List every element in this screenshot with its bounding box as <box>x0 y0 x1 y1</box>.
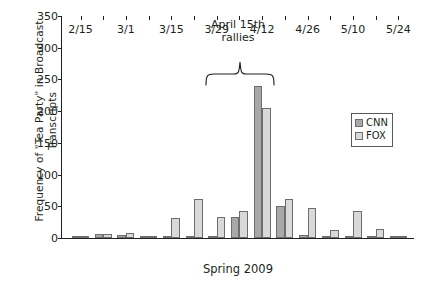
legend-label-fox: FOX <box>366 130 386 142</box>
legend-item-cnn: CNN <box>355 117 388 129</box>
y-tick-mark <box>58 79 62 80</box>
bar-fox-3-22 <box>194 199 203 238</box>
legend-swatch-cnn <box>355 119 363 127</box>
y-tick-mark <box>58 111 62 112</box>
y-tick-mark <box>58 143 62 144</box>
x-tick-label: 4/26 <box>295 23 320 36</box>
bar-fox-4-5 <box>239 211 248 238</box>
y-tick-mark <box>58 238 62 239</box>
bar-fox-3-15 <box>171 218 180 238</box>
x-tick-label: 2/15 <box>68 23 93 36</box>
y-tick-mark <box>58 206 62 207</box>
x-tick-label: 3/1 <box>117 23 135 36</box>
x-tick-mark <box>330 16 331 20</box>
x-tick-mark <box>126 16 127 20</box>
y-tick-label: 300 <box>37 42 58 53</box>
bar-fox-3-1 <box>126 233 135 238</box>
bar-cnn-3-29 <box>208 236 217 238</box>
bar-cnn-2-22 <box>95 234 104 238</box>
x-tick-mark <box>308 16 309 20</box>
bar-cnn-5-24 <box>390 236 399 238</box>
y-tick-label: 150 <box>37 137 58 148</box>
y-tick-mark <box>58 48 62 49</box>
bar-cnn-4-19 <box>276 206 285 238</box>
legend: CNN FOX <box>351 113 393 147</box>
bar-fox-5-10 <box>353 211 362 238</box>
y-tick-label: 250 <box>37 74 58 85</box>
bar-fox-3-29 <box>217 217 226 238</box>
bar-fox-4-19 <box>285 199 294 238</box>
bar-fox-5-3 <box>330 230 339 238</box>
x-tick-mark <box>103 16 104 20</box>
annotation-line-2: rallies <box>188 31 288 44</box>
x-tick-label: 3/15 <box>159 23 184 36</box>
bar-cnn-3-22 <box>186 236 195 238</box>
legend-label-cnn: CNN <box>366 117 388 129</box>
bar-fox-5-17 <box>376 229 385 239</box>
legend-swatch-fox <box>355 132 363 140</box>
x-tick-mark <box>376 16 377 20</box>
bar-cnn-5-17 <box>367 236 376 238</box>
bar-cnn-4-12 <box>254 86 263 238</box>
bar-cnn-3-15 <box>163 236 172 238</box>
x-tick-mark <box>353 16 354 20</box>
bar-cnn-5-3 <box>322 236 331 238</box>
x-tick-label: 5/10 <box>341 23 366 36</box>
bar-fox-4-12 <box>262 108 271 238</box>
bar-fox-5-24 <box>398 236 407 238</box>
y-tick-label: 50 <box>44 201 58 212</box>
bar-cnn-5-10 <box>345 236 354 238</box>
bar-fox-2-22 <box>103 234 112 238</box>
bar-cnn-3-1 <box>117 235 126 238</box>
y-tick-label: 200 <box>37 106 58 117</box>
bar-cnn-4-5 <box>231 217 240 238</box>
x-tick-mark <box>398 16 399 20</box>
legend-item-fox: FOX <box>355 130 388 142</box>
bar-fox-4-26 <box>308 208 317 238</box>
y-tick-mark <box>58 16 62 17</box>
x-axis-label: Spring 2009 <box>62 262 414 276</box>
annotation-april-15th: April 15th rallies <box>188 18 288 44</box>
y-tick-label: 100 <box>37 169 58 180</box>
bar-cnn-2-15 <box>72 236 81 238</box>
x-axis-line <box>61 238 414 239</box>
x-tick-mark <box>171 16 172 20</box>
bar-cnn-3-8 <box>140 236 149 238</box>
bar-cnn-4-26 <box>299 235 308 238</box>
x-tick-mark <box>81 16 82 20</box>
y-tick-mark <box>58 175 62 176</box>
x-tick-mark <box>149 16 150 20</box>
bar-fox-2-15 <box>81 236 90 238</box>
y-tick-label: 0 <box>51 233 58 244</box>
y-tick-label: 350 <box>37 11 58 22</box>
x-tick-label: 5/24 <box>386 23 411 36</box>
chart-figure: Frequency of "Tea Party" in Broadcast Tr… <box>0 0 423 287</box>
annotation-line-1: April 15th <box>188 18 288 31</box>
curly-brace-icon <box>204 58 276 86</box>
bar-fox-3-8 <box>149 236 158 238</box>
